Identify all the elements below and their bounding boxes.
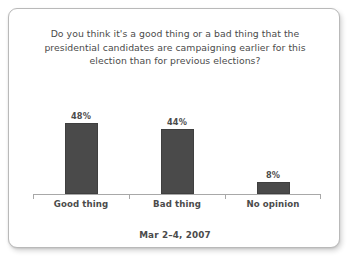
bar-value-no-opinion: 8%: [266, 170, 280, 180]
chart-footnote-date: Mar 2–4, 2007: [31, 230, 319, 240]
bar-no-opinion[interactable]: 8%: [257, 182, 290, 194]
x-axis-line: [33, 194, 321, 195]
bar-slot-good-thing: 48%: [33, 93, 129, 194]
x-label-bad-thing: Bad thing: [129, 199, 225, 209]
chart-card: Do you think it's a good thing or a bad …: [8, 8, 340, 248]
chart-title-line-1: Do you think it's a good thing or a bad …: [31, 27, 319, 41]
chart-title: Do you think it's a good thing or a bad …: [31, 27, 319, 68]
bar-value-bad-thing: 44%: [167, 117, 187, 127]
x-axis-category-labels: Good thing Bad thing No opinion: [33, 199, 321, 209]
bar-chart-plot-area: 48% 44% 8%: [33, 93, 325, 195]
bar-slot-no-opinion: 8%: [225, 93, 321, 194]
bar-series: 48% 44% 8%: [33, 93, 321, 194]
bar-bad-thing[interactable]: 44%: [161, 129, 194, 194]
x-label-no-opinion: No opinion: [225, 199, 321, 209]
bar-good-thing[interactable]: 48%: [65, 123, 98, 194]
chart-title-line-3: election than for previous elections?: [31, 54, 319, 68]
bar-value-good-thing: 48%: [71, 111, 91, 121]
x-label-good-thing: Good thing: [33, 199, 129, 209]
chart-title-line-2: presidential candidates are campaigning …: [31, 41, 319, 55]
bar-slot-bad-thing: 44%: [129, 93, 225, 194]
